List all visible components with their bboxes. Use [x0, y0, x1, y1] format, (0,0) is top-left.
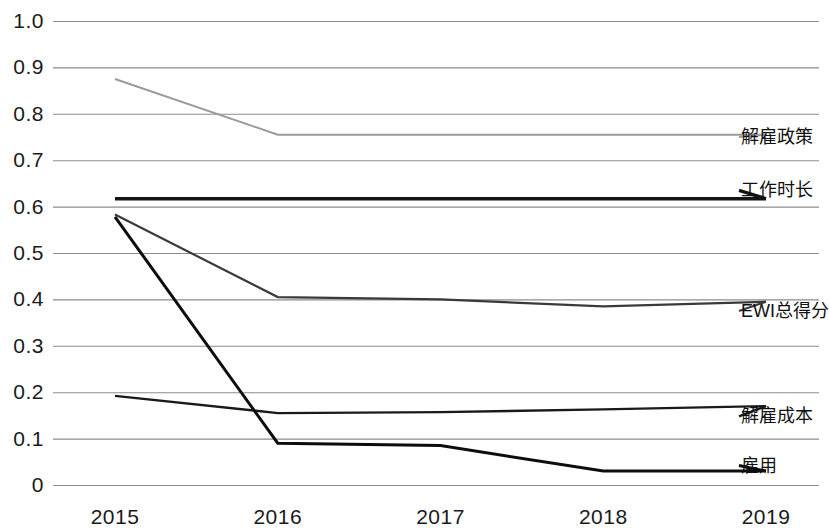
- series-line-dismissal-policy: [115, 79, 766, 135]
- series-label-dismissal-cost: 解雇成本: [741, 407, 813, 425]
- series-line-ewi-total-score: [115, 214, 766, 306]
- series-label-working-hours: 工作时长: [741, 181, 813, 199]
- series-label-dismissal-policy: 解雇政策: [741, 128, 813, 146]
- series-label-hiring: 雇用: [741, 457, 777, 475]
- series-line-dismissal-cost: [115, 396, 766, 413]
- series-line-hiring: [115, 217, 766, 471]
- series-label-ewi-total-score: EWI总得分: [741, 302, 829, 320]
